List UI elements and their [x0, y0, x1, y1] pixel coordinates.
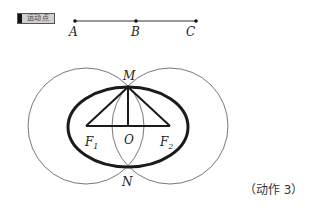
point-a[interactable]	[73, 19, 77, 23]
label-a: A	[68, 25, 78, 39]
label-o: O	[124, 133, 134, 147]
label-n: N	[121, 175, 133, 189]
segment-mf2	[128, 87, 170, 126]
diagram-stage: 运动点 A B C M N O F1 F2 （动作 3）	[0, 0, 313, 215]
label-m: M	[122, 69, 136, 83]
label-b: B	[130, 25, 140, 39]
segment-mf1	[86, 87, 128, 126]
point-c[interactable]	[194, 19, 198, 23]
label-f2: F2	[159, 135, 173, 151]
point-b[interactable]	[134, 19, 138, 23]
figure-caption: （动作 3）	[244, 180, 303, 197]
label-f1: F1	[84, 135, 98, 151]
label-c: C	[186, 25, 195, 39]
